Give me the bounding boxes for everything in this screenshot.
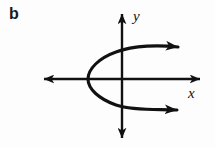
figure-panel: b <box>0 0 215 148</box>
y-axis-label: y <box>133 9 140 24</box>
parabola-lower-branch <box>88 79 177 110</box>
x-axis-label: x <box>188 86 195 101</box>
coordinate-graph <box>0 0 215 148</box>
parabola-upper-branch <box>88 46 178 79</box>
